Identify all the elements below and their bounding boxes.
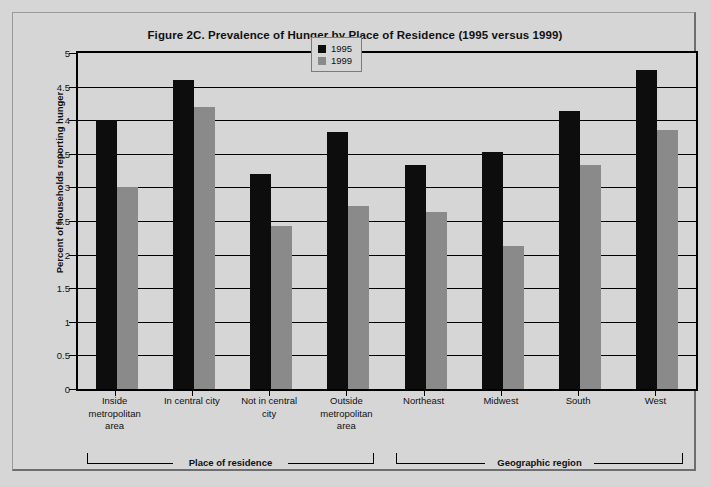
x-axis-tick-mark xyxy=(192,391,193,396)
legend-item-1995: 1995 xyxy=(318,43,352,54)
y-axis-tick-mark xyxy=(69,355,76,356)
group-bracket-1: Geographic region xyxy=(396,453,683,475)
x-axis-label-line: area xyxy=(76,420,153,433)
y-axis-tick-label: 4 xyxy=(14,115,75,126)
y-axis-tick-label: 0.5 xyxy=(14,350,75,361)
figure-container: Figure 2C. Prevalence of Hunger by Place… xyxy=(0,0,711,487)
x-axis-label-line: Not in central xyxy=(231,395,308,408)
x-axis-label-1: In central city xyxy=(153,395,230,408)
bar-1995-5 xyxy=(482,152,503,389)
y-axis-tick-label: 2 xyxy=(14,249,75,260)
x-axis-label-line: Midwest xyxy=(462,395,539,408)
bar-1999-1 xyxy=(194,107,215,389)
bar-1999-5 xyxy=(503,246,524,389)
y-axis-tick-mark xyxy=(69,187,76,188)
x-axis-tick-mark xyxy=(269,391,270,396)
y-axis-tick-mark xyxy=(69,221,76,222)
bar-1999-6 xyxy=(580,165,601,389)
group-bracket-label: Place of residence xyxy=(87,457,374,468)
bar-1995-2 xyxy=(250,174,271,389)
x-axis-label-3: Outsidemetropolitanarea xyxy=(308,395,385,433)
figure-frame: Figure 2C. Prevalence of Hunger by Place… xyxy=(12,12,696,471)
x-axis-label-line: city xyxy=(231,408,308,421)
legend-label: 1999 xyxy=(331,55,352,66)
y-axis-tick-label: 3.5 xyxy=(14,148,75,159)
bar-1999-7 xyxy=(657,130,678,389)
plot-area xyxy=(76,51,698,391)
y-axis-tick-label: 1 xyxy=(14,316,75,327)
group-bracket-0: Place of residence xyxy=(87,453,374,475)
y-axis-tick-label: 1.5 xyxy=(14,283,75,294)
x-axis-label-2: Not in centralcity xyxy=(231,395,308,420)
y-axis-tick-mark xyxy=(69,53,76,54)
y-axis-ticks: 00.511.522.533.544.55 xyxy=(13,51,75,391)
x-axis-label-line: metropolitan xyxy=(76,408,153,421)
bar-1995-3 xyxy=(327,132,348,389)
y-axis-tick-label: 5 xyxy=(14,48,75,59)
legend-swatch-icon xyxy=(318,45,326,53)
group-bracket-label: Geographic region xyxy=(396,457,683,468)
x-axis-tick-mark xyxy=(115,391,116,396)
legend-label: 1995 xyxy=(331,43,352,54)
x-axis-tick-mark xyxy=(578,391,579,396)
x-axis-label-line: area xyxy=(308,420,385,433)
bar-1999-2 xyxy=(271,226,292,389)
x-axis-label-line: South xyxy=(540,395,617,408)
y-axis-tick-mark xyxy=(69,154,76,155)
chart-legend: 19951999 xyxy=(311,37,362,72)
group-brackets: Place of residenceGeographic region xyxy=(76,453,698,479)
x-axis-label-4: Northeast xyxy=(385,395,462,408)
x-axis-tick-mark xyxy=(655,391,656,396)
y-axis-tick-mark xyxy=(69,389,76,390)
legend-item-1999: 1999 xyxy=(318,55,352,66)
x-axis-tick-mark xyxy=(346,391,347,396)
legend-swatch-icon xyxy=(318,57,326,65)
y-axis-tick-mark xyxy=(69,322,76,323)
x-axis-label-line: Outside xyxy=(308,395,385,408)
bars-layer xyxy=(78,53,696,389)
x-axis-label-line: Inside xyxy=(76,395,153,408)
x-axis-label-line: In central city xyxy=(153,395,230,408)
x-axis-label-5: Midwest xyxy=(462,395,539,408)
bar-1995-4 xyxy=(405,165,426,389)
bar-1999-3 xyxy=(348,206,369,389)
bar-1995-6 xyxy=(559,111,580,389)
bar-1995-1 xyxy=(173,80,194,389)
x-axis-label-line: metropolitan xyxy=(308,408,385,421)
bar-1999-0 xyxy=(117,187,138,389)
y-axis-tick-mark xyxy=(69,120,76,121)
y-axis-tick-label: 4.5 xyxy=(14,81,75,92)
bar-1995-0 xyxy=(96,120,117,389)
x-axis-label-line: West xyxy=(617,395,694,408)
y-axis-tick-label: 0 xyxy=(14,384,75,395)
x-axis-tick-mark xyxy=(501,391,502,396)
y-axis-tick-label: 2.5 xyxy=(14,216,75,227)
bar-1999-4 xyxy=(426,212,447,389)
x-axis-label-0: Insidemetropolitanarea xyxy=(76,395,153,433)
x-axis-label-6: South xyxy=(540,395,617,408)
y-axis-tick-mark xyxy=(69,255,76,256)
x-axis-labels: InsidemetropolitanareaIn central cityNot… xyxy=(76,395,698,445)
y-axis-tick-label: 3 xyxy=(14,182,75,193)
y-axis-tick-mark xyxy=(69,87,76,88)
x-axis-tick-mark xyxy=(424,391,425,396)
x-axis-label-line: Northeast xyxy=(385,395,462,408)
bar-1995-7 xyxy=(636,70,657,389)
x-axis-label-7: West xyxy=(617,395,694,408)
y-axis-tick-mark xyxy=(69,288,76,289)
